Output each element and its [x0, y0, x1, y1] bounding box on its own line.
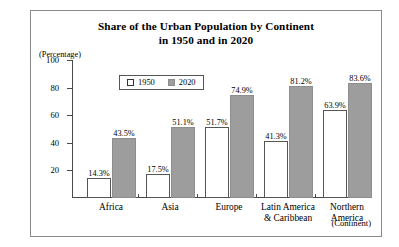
y-tick-label-80: 80: [50, 83, 59, 93]
bar-europe-2020[interactable]: 74.9%: [230, 95, 254, 198]
chart-title-line-2: in 1950 and in 2020: [31, 33, 381, 47]
chart-title: Share of the Urban Population by Contine…: [31, 19, 381, 47]
y-tick-80: 80: [67, 88, 72, 89]
category-label-asia: Asia: [161, 202, 178, 213]
x-axis-caption: (Continent): [331, 218, 371, 228]
bar-group-africa: 14.3% 43.5% Africa: [79, 60, 138, 198]
y-tick-40: 40: [67, 143, 72, 144]
bar-label-africa-2020: 43.5%: [113, 129, 134, 138]
y-tick-60: 60: [67, 115, 72, 116]
y-tick-100: 100: [67, 60, 72, 61]
bar-group-asia: 17.5% 51.1% Asia: [138, 60, 197, 198]
bar-label-latin-america-2020: 81.2%: [290, 77, 311, 86]
category-label-latin-america-caribbean: Latin America & Caribbean: [261, 202, 315, 224]
bar-label-latin-america-1950: 41.3%: [265, 132, 286, 141]
y-tick-label-40: 40: [50, 138, 59, 148]
y-tick-label-20: 20: [50, 165, 59, 175]
bar-label-africa-1950: 14.3%: [88, 169, 109, 178]
bar-label-northern-america-1950: 63.9%: [324, 101, 345, 110]
bar-africa-1950[interactable]: 14.3%: [87, 178, 111, 198]
y-tick-label-60: 60: [50, 110, 59, 120]
bar-label-asia-1950: 17.5%: [147, 165, 168, 174]
bar-northern-america-1950[interactable]: 63.9%: [323, 110, 347, 198]
category-label-europe: Europe: [215, 202, 242, 213]
category-label-africa: Africa: [99, 202, 123, 213]
chart-title-line-1: Share of the Urban Population by Contine…: [98, 20, 314, 32]
bar-group-latin-america-caribbean: 41.3% 81.2% Latin America & Caribbean: [256, 60, 315, 198]
bar-asia-1950[interactable]: 17.5%: [146, 174, 170, 198]
y-tick-label-100: 100: [46, 55, 59, 65]
bar-northern-america-2020[interactable]: 83.6%: [348, 83, 372, 198]
bar-asia-2020[interactable]: 51.1%: [171, 127, 195, 198]
chart-frame: Share of the Urban Population by Contine…: [30, 10, 382, 237]
bar-latin-america-1950[interactable]: 41.3%: [264, 141, 288, 198]
y-axis-line: [72, 60, 73, 198]
bar-label-northern-america-2020: 83.6%: [349, 74, 370, 83]
bar-label-europe-1950: 51.7%: [206, 118, 227, 127]
bar-europe-1950[interactable]: 51.7%: [205, 127, 229, 198]
bar-label-asia-2020: 51.1%: [172, 118, 193, 127]
bar-label-europe-2020: 74.9%: [231, 86, 252, 95]
bar-group-northern-america: 63.9% 83.6% Northern America: [315, 60, 374, 198]
plot-area: 100 80 60 40 20 14.3% 43.5% Africa: [72, 60, 370, 198]
bar-latin-america-2020[interactable]: 81.2%: [289, 86, 313, 198]
bar-group-europe: 51.7% 74.9% Europe: [197, 60, 256, 198]
y-tick-20: 20: [67, 170, 72, 171]
bar-africa-2020[interactable]: 43.5%: [112, 138, 136, 198]
